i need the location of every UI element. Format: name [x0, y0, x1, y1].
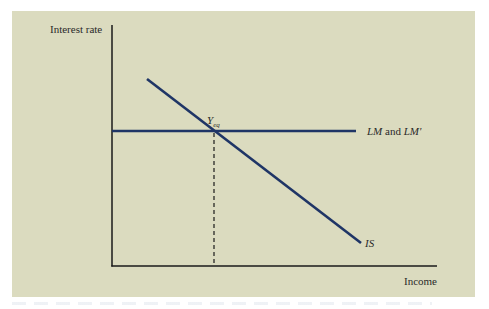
- lm-label-and: and: [382, 125, 403, 137]
- lm-label-a: LM: [367, 125, 382, 137]
- is-line: [147, 79, 361, 243]
- is-lm-chart: [0, 0, 489, 309]
- eq-subscript: eq: [213, 121, 220, 129]
- cropped-caption-strip: [12, 302, 432, 305]
- x-axis-label: Income: [404, 276, 437, 287]
- equilibrium-label: Yeq: [207, 115, 220, 126]
- y-axis-label: Interest rate: [50, 24, 102, 35]
- is-curve-label: IS: [365, 238, 374, 249]
- lm-label-b: LM': [404, 125, 422, 137]
- lm-curve-label: LM and LM': [367, 126, 421, 137]
